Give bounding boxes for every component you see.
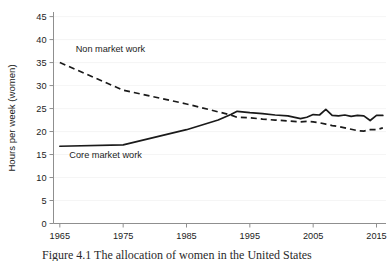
y-tick-label: 45 bbox=[36, 12, 46, 22]
x-tick-label: 2015 bbox=[366, 231, 386, 241]
x-tick-label: 1965 bbox=[50, 231, 70, 241]
series-label: Non market work bbox=[76, 44, 146, 54]
y-tick-label: 15 bbox=[36, 150, 46, 160]
x-tick-label: 1985 bbox=[176, 231, 196, 241]
x-tick-label: 1995 bbox=[240, 231, 260, 241]
line-chart: 051015202530354045 196519751985199520052… bbox=[0, 0, 390, 261]
y-tick-label: 5 bbox=[41, 196, 46, 206]
y-tick-label: 40 bbox=[36, 35, 46, 45]
y-tick-label: 20 bbox=[36, 127, 46, 137]
series-label: Core market work bbox=[69, 150, 142, 160]
x-tick-label: 2005 bbox=[303, 231, 323, 241]
x-tick-label: 1975 bbox=[113, 231, 133, 241]
y-tick-label: 0 bbox=[41, 219, 46, 229]
y-tick-label: 30 bbox=[36, 81, 46, 91]
chart-background bbox=[0, 0, 390, 261]
y-axis-title: Hours per week (women) bbox=[6, 64, 17, 171]
y-tick-label: 10 bbox=[36, 173, 46, 183]
y-tick-label: 25 bbox=[36, 104, 46, 114]
figure-container: 051015202530354045 196519751985199520052… bbox=[0, 0, 390, 261]
y-tick-label: 35 bbox=[36, 58, 46, 68]
figure-caption: Figure 4.1 The allocation of women in th… bbox=[42, 248, 312, 261]
